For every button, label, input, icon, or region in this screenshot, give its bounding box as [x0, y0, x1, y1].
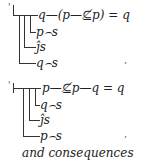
condition-stroke — [19, 15, 20, 63]
formula-main: p—⊈p—q = q — [42, 81, 124, 95]
condition-stroke — [23, 136, 40, 137]
assertion-mark: ' — [8, 2, 10, 12]
condition: p⌢s — [36, 25, 58, 39]
caption: and consequences — [22, 146, 134, 160]
condition-stroke — [29, 88, 30, 120]
formula-main: q—(p—⊈p) = q — [38, 8, 130, 22]
condition: p⌢s — [40, 129, 62, 143]
end-mark: , — [124, 54, 127, 65]
condition-stroke — [19, 63, 36, 64]
condition-stroke — [23, 88, 24, 136]
assertion-mark: ' — [8, 80, 10, 90]
formula-2: ' p—⊈p—q = q q⌢s ĵs p⌢s , — [0, 78, 151, 142]
condition: q⌢s — [40, 98, 62, 112]
condition: ĵs — [40, 113, 50, 127]
condition-stroke — [29, 120, 40, 121]
condition-stroke — [30, 15, 31, 32]
formula-1: ' q—(p—⊈p) = q p⌢s ĵs q⌢s , — [0, 0, 151, 70]
judgment-stroke — [13, 5, 14, 15]
condition-stroke — [24, 47, 36, 48]
content-stroke — [13, 88, 41, 89]
condition-stroke — [35, 88, 36, 105]
condition: q⌢s — [36, 56, 58, 70]
condition-stroke — [24, 15, 25, 47]
end-mark: , — [124, 128, 127, 139]
content-stroke — [13, 15, 38, 16]
condition: ĵs — [36, 40, 46, 54]
